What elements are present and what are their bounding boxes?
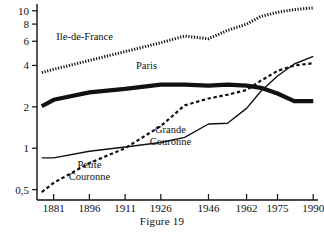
figure-19-root: 0,51246810 18811896191119261946196219751… [0,0,324,233]
y-tick-label: 6 [24,35,30,47]
y-tick-group: 0,51246810 [15,5,37,196]
y-tick-label: 4 [24,59,30,71]
x-tick-group: 18811896191119261946196219751990 [43,194,324,214]
y-tick-label: 2 [24,101,30,113]
y-tick-label: 8 [24,18,30,30]
x-tick-label: 1911 [114,202,136,214]
figure-caption: Figure 19 [0,215,324,227]
line-chart: 0,51246810 18811896191119261946196219751… [0,0,324,233]
x-tick-label: 1975 [267,202,290,214]
x-tick-label: 1926 [150,202,173,214]
y-tick-label: 0,5 [15,184,29,196]
series-label-petite-couronne: Petite [77,159,101,170]
x-tick-label: 1962 [236,202,258,214]
x-tick-label: 1881 [43,202,65,214]
series-label-petite-couronne-line2: Couronne [69,171,111,182]
y-tick-label: 1 [24,142,30,154]
x-tick-label: 1896 [78,202,101,214]
series-label-ile-de-france: Ile-de-France [56,31,113,42]
series-label-grande-couronne-line2: Couronne [150,136,192,147]
y-tick-label: 10 [18,5,30,17]
series-label-grande-couronne: Grande [155,124,186,135]
series-label-group: Ile-de-FranceParisPetiteCouronneGrandeCo… [56,31,191,182]
x-tick-label: 1946 [197,202,220,214]
x-tick-label: 1990 [302,202,324,214]
series-line-paris [42,85,313,107]
series-label-paris: Paris [136,60,157,71]
